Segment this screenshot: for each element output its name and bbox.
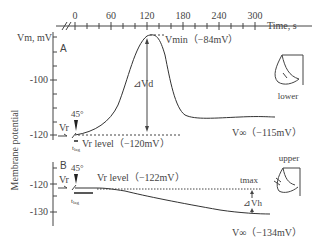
panel-b-angle-marker <box>74 174 78 184</box>
panel-b-tlag-label: tlag <box>71 197 80 205</box>
panel-a-y-tick-100: -100 <box>30 74 48 85</box>
y-axis-label: Membrane potential <box>9 109 20 190</box>
panel-a-angle-label: 45° <box>71 109 84 119</box>
panel-b-vinf-label: V∞（−134mV） <box>232 227 302 238</box>
x-axis: 0 60 120 180 240 300 Time, s <box>56 10 312 31</box>
x-tick-300: 300 <box>248 10 263 21</box>
panel-a-curve <box>75 35 275 135</box>
x-tick-60: 60 <box>106 10 116 21</box>
panel-a-y-axis: -100 -120 <box>30 32 57 140</box>
panel-b-delta-label: ⊿Vh <box>243 198 262 208</box>
panel-a-vinf-label: V∞（−115mV） <box>232 127 302 138</box>
panel-a-inset-label: lower <box>278 91 299 101</box>
panel-a-label: A <box>60 43 67 54</box>
panel-a-vr-label: Vr <box>59 122 70 133</box>
panel-b-curve <box>75 188 270 214</box>
x-tick-240: 240 <box>212 10 227 21</box>
panel-b-y-axis: -120 -130 <box>30 162 57 226</box>
x-axis-label: Time, s <box>267 20 297 31</box>
membrane-potential-chart: 0 60 120 180 240 300 Time, s Membrane po… <box>0 0 313 247</box>
panel-b-vr-label: Vr <box>59 174 70 185</box>
y-unit-label: Vm, mV <box>17 32 53 43</box>
x-tick-0: 0 <box>73 10 78 21</box>
x-tick-120: 120 <box>140 10 155 21</box>
panel-a-angle-marker <box>74 120 78 131</box>
panel-a-delta-label: ⊿Vd <box>133 78 153 89</box>
panel-b-angle-label: 45° <box>71 163 84 173</box>
panel-b-y-tick-120: -120 <box>30 179 48 190</box>
panel-b-y-tick-130: -130 <box>30 206 48 217</box>
panel-a-tlag-label: tlag <box>72 144 81 152</box>
panel-b-label: B <box>60 160 67 171</box>
x-tick-180: 180 <box>176 10 191 21</box>
panel-a-inset-lower-icon <box>275 55 303 85</box>
panel-a-vmin-label: Vmin（−84mV） <box>165 34 238 45</box>
panel-a-y-tick-120: -120 <box>30 129 48 140</box>
panel-b-inset-label: upper <box>279 153 300 163</box>
panel-b-inset-upper-icon <box>274 168 300 196</box>
panel-b-vr-level-label: Vr level（−122mV） <box>97 172 185 183</box>
panel-b-tmax-label: tmax <box>240 175 258 185</box>
panel-a-vr-level-label: Vr level（−120mV） <box>82 138 170 149</box>
